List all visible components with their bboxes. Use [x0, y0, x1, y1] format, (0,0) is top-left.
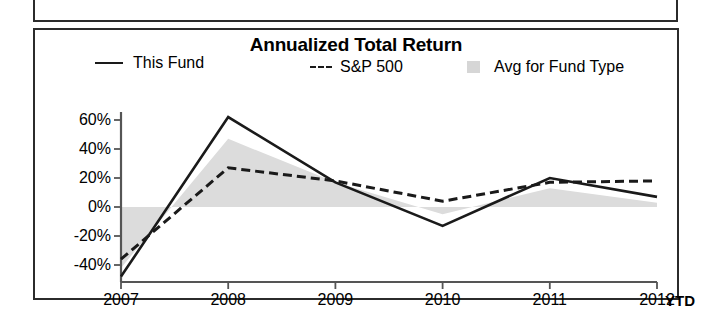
y-axis-tick-label: -20%	[49, 228, 111, 244]
x-axis-tick-label: 2007	[86, 292, 156, 308]
chart-canvas	[35, 30, 681, 302]
y-axis-tick-label: 0%	[49, 199, 111, 215]
adjacent-panel-edge	[33, 0, 678, 22]
x-axis-tick-label: 2011	[515, 292, 585, 308]
x-axis-ytd-label: YTD	[665, 293, 695, 309]
y-axis-tick-label: 60%	[49, 112, 111, 128]
annualized-total-return-panel: Annualized Total Return This Fund S&P 50…	[33, 28, 679, 300]
plot-area: 60%40%20%0%-20%-40% 20072008200920102011…	[35, 30, 681, 302]
x-axis-tick-label: 2009	[300, 292, 370, 308]
x-axis-tick-label: 2008	[193, 292, 263, 308]
y-axis-tick-label: 40%	[49, 141, 111, 157]
y-axis-tick-label: -40%	[49, 257, 111, 273]
x-axis-tick-label: 2010	[408, 292, 478, 308]
y-axis-tick-label: 20%	[49, 170, 111, 186]
